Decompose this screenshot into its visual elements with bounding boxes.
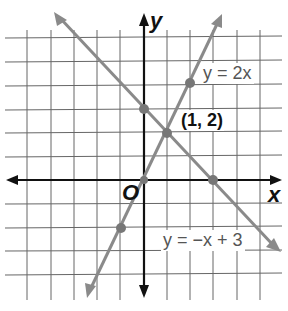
x-axis-label: x bbox=[268, 182, 280, 208]
point-neg1-neg2 bbox=[116, 223, 126, 233]
point-3-0 bbox=[208, 175, 218, 185]
y-axis-arrow-up-icon bbox=[139, 13, 149, 26]
point-0-3 bbox=[139, 104, 149, 114]
y-axis-label: y bbox=[150, 8, 162, 34]
point-0-0 bbox=[140, 176, 148, 184]
point-2-4 bbox=[185, 78, 195, 88]
line-label-y-2x: y = 2x bbox=[201, 63, 254, 84]
origin-label: O bbox=[122, 180, 139, 206]
arrowhead-icon bbox=[85, 283, 96, 298]
x-axis-arrow-left-icon bbox=[6, 175, 18, 185]
y-axis-arrow-down-icon bbox=[139, 285, 149, 298]
point-1-2 bbox=[162, 128, 172, 138]
line-label-neg-x-plus-3: y = −x + 3 bbox=[161, 230, 245, 251]
intersection-label: (1, 2) bbox=[180, 110, 224, 131]
coordinate-plane bbox=[0, 0, 288, 311]
arrowhead-icon bbox=[211, 14, 222, 28]
